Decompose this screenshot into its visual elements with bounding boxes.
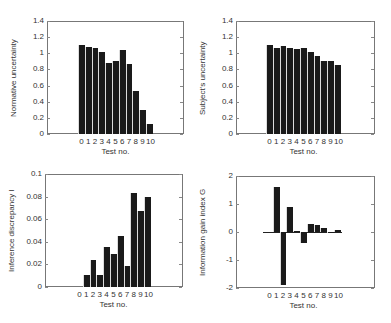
y-tick-mark (371, 260, 374, 261)
y-tick-mark (47, 118, 50, 119)
y-tick-mark (371, 118, 374, 119)
y-tick-mark (47, 53, 50, 54)
bar (286, 48, 293, 134)
y-axis-label: Information gain index G (198, 188, 207, 275)
y-tick-mark (371, 176, 374, 177)
bar (117, 236, 124, 287)
y-tick-label: 0.1 (18, 170, 42, 178)
y-tick-label: -2 (209, 284, 233, 292)
y-tick-mark (371, 232, 374, 233)
y-tick-label: 0 (20, 130, 44, 138)
y-tick-label: 1 (20, 49, 44, 57)
bar (320, 61, 327, 134)
y-tick-mark (180, 86, 183, 87)
y-tick-mark (179, 219, 182, 220)
y-tick-mark (179, 287, 182, 288)
y-tick-mark (236, 118, 239, 119)
bar (85, 47, 92, 134)
bar (146, 124, 153, 134)
y-tick-mark (371, 21, 374, 22)
y-tick-mark (236, 176, 239, 177)
bar (78, 45, 85, 134)
bar (130, 193, 137, 287)
y-tick-label: 0 (209, 228, 233, 236)
x-tick-label: 10 (332, 138, 344, 146)
y-tick-label: 0.8 (20, 65, 44, 73)
bar (105, 63, 112, 134)
y-tick-label: 0.04 (18, 238, 42, 246)
y-tick-mark (47, 37, 50, 38)
y-tick-mark (371, 86, 374, 87)
y-tick-label: 1 (209, 49, 233, 57)
y-tick-mark (236, 260, 239, 261)
bar (320, 228, 327, 232)
bar (103, 247, 110, 287)
y-tick-label: 2 (209, 172, 233, 180)
bar (92, 48, 99, 134)
y-tick-mark (236, 37, 239, 38)
y-tick-label: 0.6 (209, 82, 233, 90)
bar (293, 49, 300, 134)
y-tick-mark (179, 197, 182, 198)
y-tick-mark (47, 21, 50, 22)
x-axis-label: Test no. (266, 147, 341, 156)
y-tick-mark (180, 118, 183, 119)
y-tick-mark (236, 21, 239, 22)
y-tick-label: 0.02 (18, 260, 42, 268)
y-tick-label: 1 (209, 200, 233, 208)
x-tick-label: 10 (332, 292, 344, 300)
bar (334, 230, 341, 232)
bar (132, 91, 139, 134)
x-tick-label: 10 (144, 138, 156, 146)
x-tick-label: 10 (142, 291, 154, 299)
bar (327, 61, 334, 134)
bar (98, 52, 105, 134)
y-tick-mark (45, 219, 48, 220)
bar (119, 50, 126, 134)
bar (139, 110, 146, 134)
y-tick-mark (180, 69, 183, 70)
bar (280, 46, 287, 134)
y-tick-mark (236, 204, 239, 205)
bar (273, 48, 280, 134)
x-axis-label: Test no. (76, 300, 151, 309)
y-tick-mark (180, 134, 183, 135)
bar (144, 197, 151, 287)
y-axis-label: Normative uncertainty (9, 39, 18, 117)
bar (112, 61, 119, 134)
y-tick-label: 0 (18, 283, 42, 291)
y-tick-mark (371, 204, 374, 205)
bar (266, 45, 273, 134)
y-tick-mark (179, 242, 182, 243)
x-axis-label: Test no. (266, 301, 341, 310)
y-tick-mark (47, 134, 50, 135)
bar (273, 187, 280, 232)
y-tick-mark (371, 288, 374, 289)
y-tick-mark (236, 288, 239, 289)
y-tick-mark (236, 232, 239, 233)
y-tick-mark (371, 53, 374, 54)
y-tick-mark (45, 197, 48, 198)
y-tick-label: 0.8 (209, 65, 233, 73)
y-tick-mark (236, 134, 239, 135)
y-tick-mark (47, 86, 50, 87)
bar (314, 225, 321, 232)
bar (286, 207, 293, 232)
y-tick-label: 1.2 (209, 33, 233, 41)
y-tick-label: 1.4 (20, 17, 44, 25)
y-tick-mark (180, 102, 183, 103)
y-tick-label: -1 (209, 256, 233, 264)
y-tick-mark (236, 102, 239, 103)
bar (90, 260, 97, 287)
bar (314, 56, 321, 134)
bar (300, 48, 307, 134)
y-axis-label: Subject's uncertainty (198, 41, 207, 115)
y-tick-mark (371, 102, 374, 103)
y-tick-label: 1.2 (20, 33, 44, 41)
bar (327, 232, 334, 233)
y-tick-mark (47, 69, 50, 70)
bar (307, 224, 314, 232)
bar (280, 232, 287, 285)
y-tick-mark (236, 69, 239, 70)
y-tick-label: 1.4 (209, 17, 233, 25)
